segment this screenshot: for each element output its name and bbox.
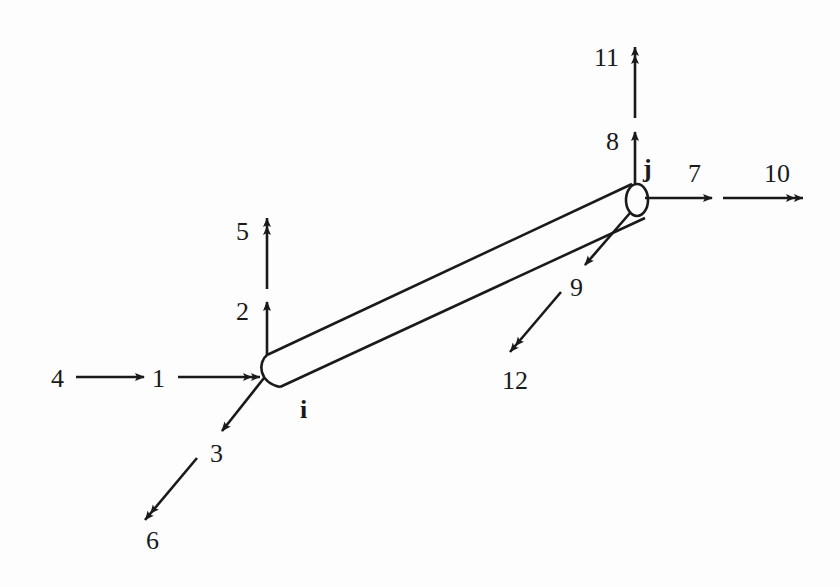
- dof-12-label: 12: [502, 366, 528, 395]
- dof-1-label: 1: [152, 364, 165, 393]
- beam-element-diagram: 1 2 3 4 5 6 7 8 9 10 11 12 i j: [0, 0, 840, 587]
- dof-9-arrow: [585, 213, 630, 265]
- dof-3-arrow: [222, 378, 264, 431]
- dof-8-label: 8: [606, 127, 619, 156]
- dof-10-label: 10: [764, 159, 790, 188]
- dof-9-label: 9: [570, 273, 583, 302]
- dof-7-label: 7: [688, 159, 701, 188]
- dof-4-label: 4: [51, 364, 64, 393]
- beam-member: [261, 184, 648, 387]
- node-i-dofs: [76, 218, 267, 520]
- dof-3-label: 3: [210, 439, 223, 468]
- dof-6-arrow: [145, 458, 197, 520]
- dof-12-arrow: [510, 292, 561, 352]
- dof-2-label: 2: [236, 297, 249, 326]
- dof-5-label: 5: [236, 217, 249, 246]
- dof-11-label: 11: [594, 43, 619, 72]
- node-j-label: j: [642, 154, 652, 183]
- node-i-label: i: [300, 395, 307, 424]
- node-j-dofs: [510, 47, 803, 352]
- dof-6-label: 6: [146, 526, 159, 555]
